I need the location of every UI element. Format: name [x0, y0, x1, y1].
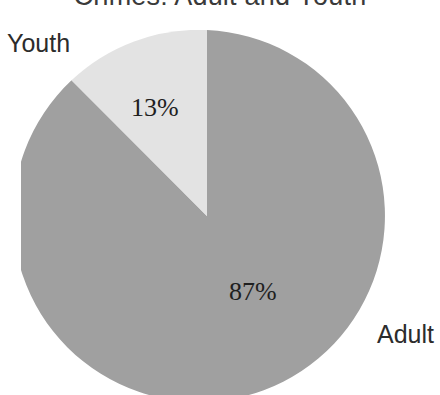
pie-chart-screenshot: Crimes: Adult and Youth Youth Adult 13% … [0, 0, 440, 395]
chart-title: Crimes: Adult and Youth [0, 0, 440, 12]
pie-svg [21, 30, 393, 395]
pie-value-youth: 13% [131, 93, 179, 123]
pie-label-adult: Adult [377, 320, 434, 349]
pie-value-adult: 87% [229, 277, 277, 307]
pie-label-youth: Youth [7, 29, 70, 58]
pie-chart-graphic [21, 30, 393, 395]
